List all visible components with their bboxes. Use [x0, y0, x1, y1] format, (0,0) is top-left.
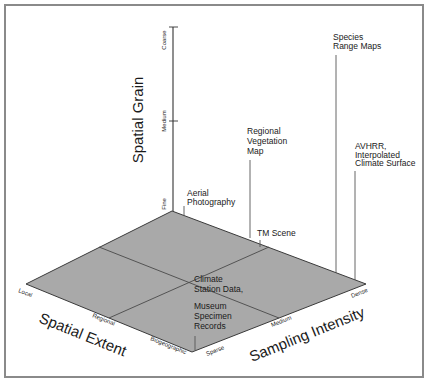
label-museum-2: Specimen	[194, 311, 232, 321]
label-aerial-2: Photography	[187, 197, 236, 207]
tick-label-fine: Fine	[161, 198, 167, 210]
scale-diagram: Coarse Medium Fine Spatial Grain Local R…	[0, 0, 427, 382]
label-regveg-1: Regional	[247, 126, 281, 136]
label-regveg-2: Vegetation	[247, 136, 287, 146]
label-tm: TM Scene	[257, 228, 296, 238]
label-museum-3: Records	[194, 321, 226, 331]
label-species-2: Range Maps	[333, 41, 381, 51]
label-climate-1: Climate	[194, 274, 223, 284]
label-regveg-3: Map	[247, 146, 264, 156]
label-avhrr-3: Climate Surface	[355, 158, 416, 168]
label-climate-2: Station Data,	[194, 284, 243, 294]
tick-label-medium-grain: Medium	[161, 110, 167, 131]
spatial-grain-title: Spatial Grain	[129, 77, 146, 164]
label-museum-1: Museum	[194, 301, 227, 311]
tick-label-coarse: Coarse	[161, 30, 167, 50]
